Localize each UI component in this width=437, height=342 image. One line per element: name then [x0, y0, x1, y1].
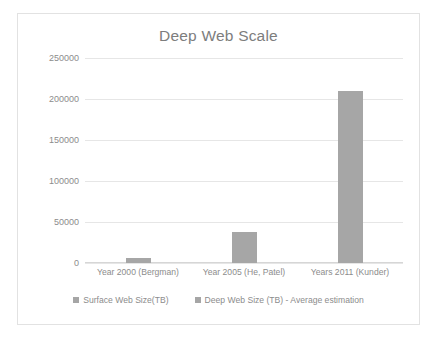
legend-item[interactable]: Surface Web Size(TB): [73, 295, 168, 305]
chart-container: Deep Web Scale 0500001000001500002000002…: [17, 13, 420, 325]
y-axis-tick-label: 50000: [54, 217, 79, 227]
bar[interactable]: [338, 91, 363, 263]
y-axis-tick-label: 250000: [49, 53, 79, 63]
x-axis-labels: Year 2000 (Bergman)Year 2005 (He, Patel)…: [85, 267, 403, 277]
legend-item-label: Deep Web Size (TB) - Average estimation: [205, 295, 364, 305]
x-axis-tick-label: Year 2000 (Bergman): [85, 267, 191, 277]
x-axis-tick-label: Year 2005 (He, Patel): [191, 267, 297, 277]
chart-legend: Surface Web Size(TB)Deep Web Size (TB) -…: [18, 295, 419, 305]
legend-swatch-icon: [195, 297, 201, 303]
legend-swatch-icon: [73, 297, 79, 303]
bar-category-group: [297, 58, 403, 263]
y-axis-tick-label: 200000: [49, 94, 79, 104]
bar[interactable]: [232, 232, 257, 263]
bar-category-group: [85, 58, 191, 263]
y-axis-tick-label: 100000: [49, 176, 79, 186]
gridline: [85, 263, 403, 264]
bar-category-group: [191, 58, 297, 263]
plot-area: 050000100000150000200000250000: [85, 58, 403, 263]
chart-title: Deep Web Scale: [18, 27, 419, 45]
y-axis-tick-label: 0: [74, 258, 79, 268]
x-axis-tick-label: Years 2011 (Kunder): [297, 267, 403, 277]
bar[interactable]: [126, 258, 151, 263]
y-axis-tick-label: 150000: [49, 135, 79, 145]
bar-group: [85, 58, 403, 263]
legend-item-label: Surface Web Size(TB): [83, 295, 168, 305]
legend-item[interactable]: Deep Web Size (TB) - Average estimation: [195, 295, 364, 305]
